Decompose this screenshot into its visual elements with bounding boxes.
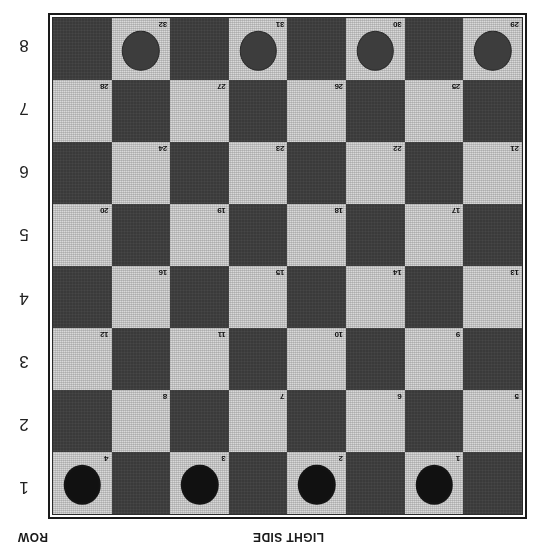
board-square-unplayable-r4c4[interactable] bbox=[288, 266, 347, 328]
board-square-unplayable-r2c6[interactable] bbox=[170, 390, 229, 452]
square-number-23: 23 bbox=[276, 144, 284, 152]
board-square-28[interactable]: 28 bbox=[53, 80, 112, 142]
board-square-3[interactable]: 3 bbox=[170, 452, 229, 514]
checker-piece-black-1[interactable] bbox=[415, 465, 453, 505]
board-square-unplayable-r8c2[interactable] bbox=[405, 18, 464, 80]
row-label-2: 2 bbox=[4, 393, 44, 456]
board-square-20[interactable]: 20 bbox=[53, 204, 112, 266]
board-square-unplayable-r3c1[interactable] bbox=[463, 328, 522, 390]
board-square-unplayable-r7c1[interactable] bbox=[463, 80, 522, 142]
board-square-8[interactable]: 8 bbox=[112, 390, 171, 452]
checkerboard-grid: 1234567891011121314151617181920212223242… bbox=[52, 17, 523, 515]
board-square-unplayable-r2c2[interactable] bbox=[405, 390, 464, 452]
board-square-17[interactable]: 17 bbox=[405, 204, 464, 266]
board-square-31[interactable]: 31 bbox=[229, 18, 288, 80]
board-square-unplayable-r6c2[interactable] bbox=[405, 142, 464, 204]
board-square-13[interactable]: 13 bbox=[463, 266, 522, 328]
board-square-30[interactable]: 30 bbox=[346, 18, 405, 80]
board-square-4[interactable]: 4 bbox=[53, 452, 112, 514]
board-square-unplayable-r1c7[interactable] bbox=[112, 452, 171, 514]
board-square-unplayable-r7c7[interactable] bbox=[112, 80, 171, 142]
board-square-unplayable-r3c3[interactable] bbox=[346, 328, 405, 390]
board-square-1[interactable]: 1 bbox=[405, 452, 464, 514]
board-square-6[interactable]: 6 bbox=[346, 390, 405, 452]
board-square-unplayable-r8c8[interactable] bbox=[53, 18, 112, 80]
board-square-unplayable-r3c7[interactable] bbox=[112, 328, 171, 390]
board-square-unplayable-r1c3[interactable] bbox=[346, 452, 405, 514]
board-square-26[interactable]: 26 bbox=[288, 80, 347, 142]
board-square-22[interactable]: 22 bbox=[346, 142, 405, 204]
checker-piece-black-4[interactable] bbox=[64, 465, 102, 505]
square-number-31: 31 bbox=[276, 20, 284, 28]
square-number-15: 15 bbox=[276, 268, 284, 276]
board-square-unplayable-r6c6[interactable] bbox=[170, 142, 229, 204]
square-number-28: 28 bbox=[100, 82, 108, 90]
row-label-6: 6 bbox=[4, 140, 44, 203]
square-number-1: 1 bbox=[456, 454, 460, 462]
square-number-2: 2 bbox=[339, 454, 343, 462]
row-label-7: 7 bbox=[4, 76, 44, 139]
board-square-32[interactable]: 32 bbox=[112, 18, 171, 80]
board-square-unplayable-r1c1[interactable] bbox=[463, 452, 522, 514]
board-square-15[interactable]: 15 bbox=[229, 266, 288, 328]
board-square-unplayable-r2c4[interactable] bbox=[288, 390, 347, 452]
board-square-unplayable-r4c2[interactable] bbox=[405, 266, 464, 328]
checker-piece-gray-30[interactable] bbox=[357, 31, 395, 71]
board-square-unplayable-r5c3[interactable] bbox=[346, 204, 405, 266]
board-square-10[interactable]: 10 bbox=[288, 328, 347, 390]
square-number-7: 7 bbox=[280, 392, 284, 400]
checkerboard-frame: 1234567891011121314151617181920212223242… bbox=[48, 13, 527, 519]
board-square-25[interactable]: 25 bbox=[405, 80, 464, 142]
square-number-18: 18 bbox=[335, 206, 343, 214]
row-caption-label: ROW bbox=[17, 530, 48, 544]
board-square-unplayable-r6c8[interactable] bbox=[53, 142, 112, 204]
light-side-caption-label: LIGHT SIDE bbox=[253, 530, 324, 544]
square-number-32: 32 bbox=[159, 20, 167, 28]
board-square-7[interactable]: 7 bbox=[229, 390, 288, 452]
square-number-16: 16 bbox=[159, 268, 167, 276]
board-square-unplayable-r1c5[interactable] bbox=[229, 452, 288, 514]
checker-piece-gray-32[interactable] bbox=[122, 31, 160, 71]
square-number-25: 25 bbox=[452, 82, 460, 90]
square-number-5: 5 bbox=[515, 392, 519, 400]
board-square-unplayable-r4c8[interactable] bbox=[53, 266, 112, 328]
board-square-unplayable-r7c3[interactable] bbox=[346, 80, 405, 142]
board-square-23[interactable]: 23 bbox=[229, 142, 288, 204]
board-square-unplayable-r6c4[interactable] bbox=[288, 142, 347, 204]
board-square-9[interactable]: 9 bbox=[405, 328, 464, 390]
board-square-2[interactable]: 2 bbox=[288, 452, 347, 514]
board-square-unplayable-r3c5[interactable] bbox=[229, 328, 288, 390]
square-number-22: 22 bbox=[393, 144, 401, 152]
board-square-27[interactable]: 27 bbox=[170, 80, 229, 142]
row-number-axis: 12345678 bbox=[4, 13, 44, 519]
board-square-unplayable-r8c4[interactable] bbox=[288, 18, 347, 80]
checker-piece-black-2[interactable] bbox=[298, 465, 336, 505]
board-square-16[interactable]: 16 bbox=[112, 266, 171, 328]
board-square-21[interactable]: 21 bbox=[463, 142, 522, 204]
square-number-24: 24 bbox=[159, 144, 167, 152]
board-square-19[interactable]: 19 bbox=[170, 204, 229, 266]
square-number-19: 19 bbox=[218, 206, 226, 214]
board-square-18[interactable]: 18 bbox=[288, 204, 347, 266]
checker-piece-gray-29[interactable] bbox=[474, 31, 512, 71]
board-square-unplayable-r8c6[interactable] bbox=[170, 18, 229, 80]
board-square-12[interactable]: 12 bbox=[53, 328, 112, 390]
board-square-14[interactable]: 14 bbox=[346, 266, 405, 328]
checker-piece-black-3[interactable] bbox=[181, 465, 219, 505]
board-square-5[interactable]: 5 bbox=[463, 390, 522, 452]
square-number-4: 4 bbox=[104, 454, 108, 462]
square-number-8: 8 bbox=[163, 392, 167, 400]
board-square-24[interactable]: 24 bbox=[112, 142, 171, 204]
board-square-unplayable-r2c8[interactable] bbox=[53, 390, 112, 452]
board-square-unplayable-r5c7[interactable] bbox=[112, 204, 171, 266]
board-square-29[interactable]: 29 bbox=[463, 18, 522, 80]
row-label-1: 1 bbox=[4, 456, 44, 519]
board-square-unplayable-r5c1[interactable] bbox=[463, 204, 522, 266]
board-square-11[interactable]: 11 bbox=[170, 328, 229, 390]
board-square-unplayable-r5c5[interactable] bbox=[229, 204, 288, 266]
board-square-unplayable-r4c6[interactable] bbox=[170, 266, 229, 328]
checker-piece-gray-31[interactable] bbox=[239, 31, 277, 71]
row-label-4: 4 bbox=[4, 266, 44, 329]
square-number-13: 13 bbox=[511, 268, 519, 276]
board-square-unplayable-r7c5[interactable] bbox=[229, 80, 288, 142]
